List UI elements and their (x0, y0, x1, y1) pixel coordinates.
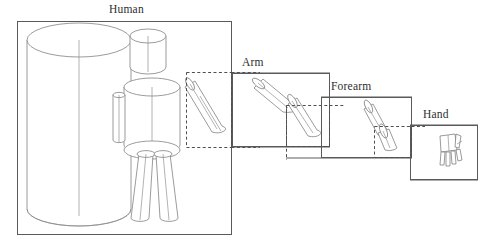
left-arm-cylinder (113, 92, 125, 142)
hand-model (440, 134, 462, 166)
hand-level-group[interactable] (411, 126, 478, 180)
index-finger (440, 152, 445, 165)
diagram-canvas: .bx{fill:none;stroke:#5a5a5a;stroke-widt… (0, 0, 492, 251)
middle-finger (446, 152, 450, 166)
left-leg-cylinder (131, 151, 155, 222)
forearm-level-group[interactable] (322, 98, 412, 158)
head-cylinder (130, 29, 166, 74)
right-leg-cylinder (154, 151, 178, 222)
forearm-hand-cylinder (378, 123, 397, 151)
arm-forearm-cylinder (286, 93, 321, 137)
arm-label: Arm (242, 57, 264, 69)
right-upper-arm-cylinder (184, 76, 226, 132)
hand-label: Hand (423, 109, 449, 121)
little-finger (456, 149, 462, 161)
forearm-label: Forearm (331, 81, 371, 93)
human-label: Human (109, 4, 144, 16)
thumb (455, 134, 461, 148)
ring-finger (451, 151, 456, 164)
human-level-group[interactable] (18, 22, 232, 235)
diagram-svg: .bx{fill:none;stroke:#5a5a5a;stroke-widt… (0, 0, 492, 251)
